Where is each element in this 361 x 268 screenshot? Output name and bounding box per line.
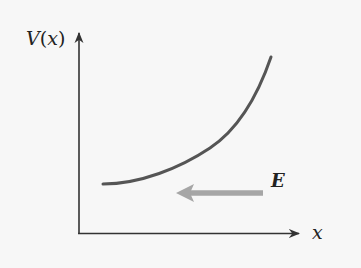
potential-curve (103, 57, 271, 184)
diagram-canvas: V(x) x E (0, 0, 361, 268)
electric-field-arrow (176, 184, 263, 202)
y-axis-label: V(x) (26, 29, 65, 48)
y-axis-label-close: ) (58, 27, 65, 49)
y-axis-label-func: V (26, 27, 40, 49)
electric-field-label: E (271, 172, 285, 190)
y-axis-label-var: x (47, 27, 58, 49)
x-axis-label: x (312, 223, 323, 242)
